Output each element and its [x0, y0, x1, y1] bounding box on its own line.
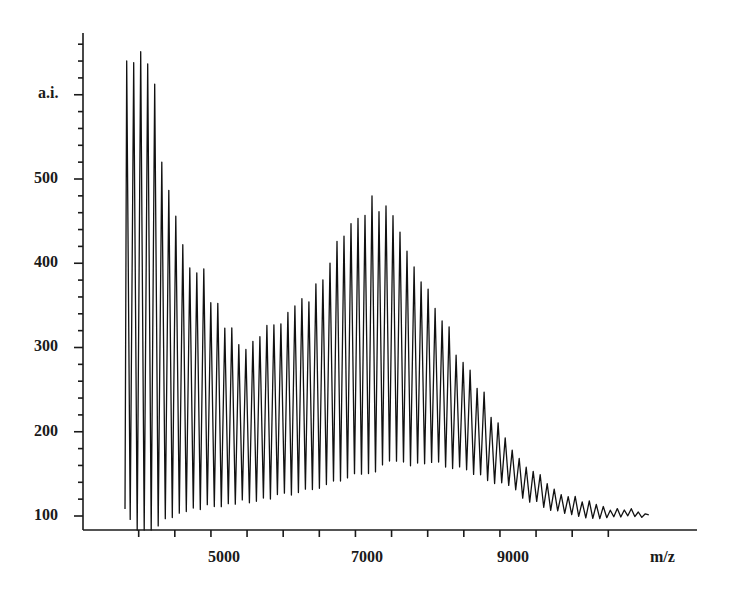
y-tick-label-200: 200: [34, 422, 58, 440]
x-axis-label: m/z: [650, 548, 675, 566]
x-tick-label-7000: 7000: [351, 548, 383, 566]
mass-spectrum-chart: [0, 0, 730, 594]
x-tick-label-9000: 9000: [497, 548, 529, 566]
y-axis-ticks: [74, 44, 83, 516]
x-tick-label-5000: 5000: [208, 548, 240, 566]
y-tick-label-300: 300: [34, 337, 58, 355]
spectrum-line: [125, 52, 649, 530]
x-axis-ticks: [139, 530, 609, 537]
y-tick-label-100: 100: [34, 506, 58, 524]
y-tick-label-500: 500: [34, 169, 58, 187]
y-tick-label-400: 400: [34, 253, 58, 271]
y-axis-label: a.i.: [38, 84, 58, 102]
